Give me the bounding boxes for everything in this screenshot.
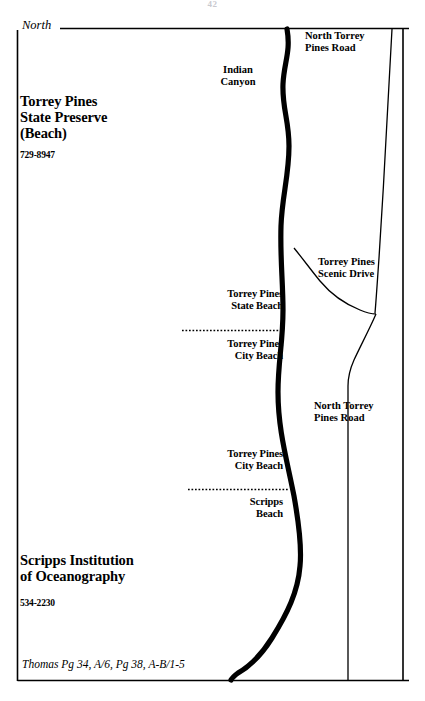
- beach-label-torrey-pines-city-beach-south: Torrey Pines City Beach: [168, 448, 283, 472]
- road-torrey-pines-scenic-drive-label: Torrey Pines Scenic Drive: [318, 256, 418, 280]
- road-north-torrey-pines-road-label-south: North Torrey Pines Road: [314, 400, 410, 424]
- beach-label-torrey-pines-city-beach-north: Torrey Pines City Beach: [168, 338, 283, 362]
- indian-canyon-label: Indian Canyon: [193, 64, 283, 88]
- map-page: 42 North Torrey Pines State Preserve (Be…: [0, 0, 425, 701]
- road-north-torrey-pines-lower: [348, 314, 376, 680]
- park-phone-label: 729-8947: [20, 150, 55, 161]
- road-north-torrey-pines-road-label-north: North Torrey Pines Road: [305, 30, 401, 54]
- scripps-institution-name-label: Scripps Institution of Oceanography: [20, 552, 220, 584]
- scripps-institution-phone-label: 534-2230: [20, 598, 55, 609]
- thomas-guide-reference-label: Thomas Pg 34, A/6, Pg 38, A-B/1-5: [22, 658, 185, 671]
- north-compass-label: North: [22, 18, 51, 32]
- beach-label-torrey-pines-state-beach: Torrey Pines State Beach: [168, 288, 283, 312]
- beach-label-scripps-beach: Scripps Beach: [168, 496, 283, 520]
- park-name-label: Torrey Pines State Preserve (Beach): [20, 93, 180, 142]
